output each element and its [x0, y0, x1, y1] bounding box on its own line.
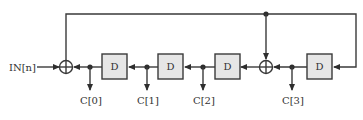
svg-text:D: D [110, 61, 118, 72]
output-label-c1: C[1] [137, 95, 159, 106]
tap-c2 [200, 64, 205, 90]
tap-c1 [144, 64, 149, 90]
adder-1 [60, 61, 73, 74]
output-label-c0: C[0] [80, 95, 102, 106]
lfsr-diagram: IN[n] D D D D [0, 0, 363, 120]
adder-2 [260, 61, 273, 74]
delay-box-3: D [215, 54, 240, 79]
delay-box-2: D [158, 54, 183, 79]
delay-box-1: D [102, 54, 127, 79]
svg-text:D: D [223, 61, 231, 72]
tap-c3 [289, 64, 294, 90]
svg-text:D: D [315, 61, 323, 72]
svg-text:D: D [166, 61, 174, 72]
output-label-c3: C[3] [282, 95, 304, 106]
input-label: IN[n] [9, 62, 36, 73]
output-label-c2: C[2] [193, 95, 215, 106]
tap-c0 [87, 64, 92, 90]
delay-box-4: D [307, 54, 332, 79]
